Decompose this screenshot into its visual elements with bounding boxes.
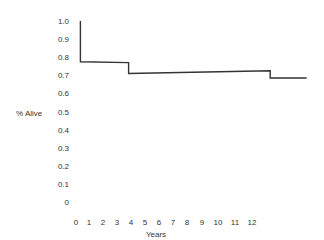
survival-chart: 1.00.90.80.70.60.50.40.30.20.10 01234567… <box>0 0 324 240</box>
y-tick-label: 0.5 <box>58 108 70 117</box>
x-tick-label: 12 <box>248 218 257 227</box>
y-tick-label: 0 <box>65 198 70 207</box>
x-tick-label: 6 <box>157 218 162 227</box>
x-tick-label: 5 <box>143 218 148 227</box>
x-tick-label: 0 <box>74 218 79 227</box>
y-axis-ticks: 1.00.90.80.70.60.50.40.30.20.10 <box>58 17 70 207</box>
x-tick-label: 11 <box>231 218 240 227</box>
x-tick-label: 4 <box>129 218 134 227</box>
x-tick-label: 9 <box>200 218 205 227</box>
y-tick-label: 0.3 <box>58 144 70 153</box>
y-tick-label: 0.1 <box>58 180 70 189</box>
x-tick-label: 10 <box>214 218 223 227</box>
y-tick-label: 0.6 <box>58 89 70 98</box>
x-tick-label: 3 <box>115 218 120 227</box>
y-tick-label: 0.2 <box>58 162 70 171</box>
x-axis-label: Years <box>146 230 166 239</box>
series-group <box>80 21 306 78</box>
x-tick-label: 7 <box>171 218 176 227</box>
x-axis-ticks: 0123456789101112 <box>74 218 257 227</box>
x-tick-label: 8 <box>185 218 190 227</box>
survival-step-line <box>80 21 306 78</box>
y-tick-label: 0.4 <box>58 126 70 135</box>
y-tick-label: 0.8 <box>58 53 70 62</box>
y-axis-label: % Alive <box>16 109 43 118</box>
x-tick-label: 1 <box>87 218 92 227</box>
x-tick-label: 2 <box>101 218 106 227</box>
y-tick-label: 0.9 <box>58 35 70 44</box>
y-tick-label: 1.0 <box>58 17 70 26</box>
y-tick-label: 0.7 <box>58 71 70 80</box>
